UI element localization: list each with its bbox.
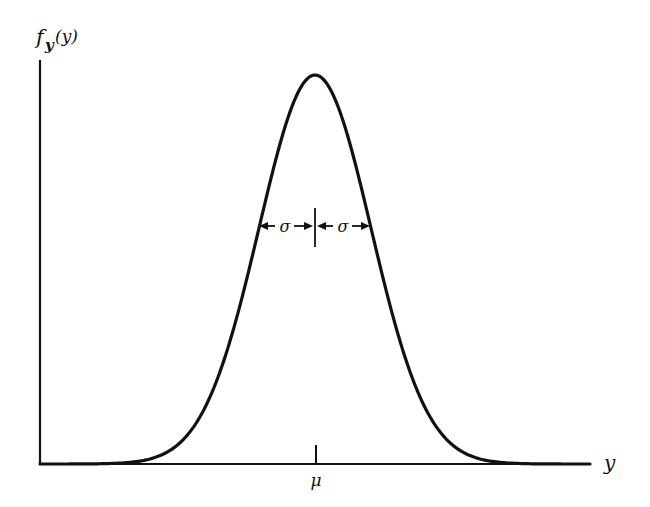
x-axis-label: y [603,451,616,475]
sigma-markers: σ σ [259,208,370,247]
y-axis-label-subscript: y [44,36,55,54]
gaussian-diagram: σ σ f y (y) y μ [0,0,650,507]
y-axis-label: f y (y) [34,25,78,54]
arrowhead-right-icon [304,222,313,230]
arrowhead-left-icon [317,222,326,230]
density-curve [40,75,590,464]
sigma-left-label: σ [280,217,292,236]
y-axis-label-argument: (y) [55,26,78,46]
mean-label: μ [310,470,321,490]
sigma-right-label: σ [338,217,350,236]
